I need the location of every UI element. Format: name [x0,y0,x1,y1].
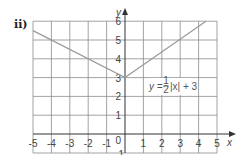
x-tick-label: 4 [196,138,202,149]
y-tick-label: 5 [115,35,121,46]
y-tick-label-neg: -1 [115,149,124,155]
x-tick-label: 5 [214,138,220,149]
x-tick-label: 2 [159,138,165,149]
origin-label: 0 [115,135,121,146]
equation-fraction-denominator: 2 [163,84,169,95]
y-tick-label: 6 [115,16,121,27]
x-tick-label: -1 [102,138,111,149]
x-tick-label: -2 [84,138,93,149]
y-tick-label: 2 [115,91,121,102]
x-tick-label: -3 [65,138,74,149]
y-tick-label: 1 [115,110,121,121]
x-tick-label: 3 [177,138,183,149]
equation-suffix: |x| + 3 [170,81,198,92]
x-tick-label: -4 [47,138,56,149]
x-tick-label: -5 [29,138,38,149]
x-axis-label: x [226,137,233,148]
x-tick-label: 1 [141,138,147,149]
equation-prefix: y = [148,81,163,92]
y-axis-arrow-icon [122,8,128,15]
y-tick-label: 4 [115,54,121,65]
function-graph: xy-5-4-3-2-1123451234560-1y =12|x| + 3 [0,0,238,155]
